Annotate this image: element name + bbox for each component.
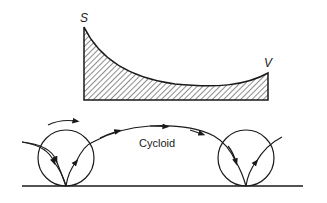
left-circle: [38, 130, 94, 186]
incoming-path-left: [22, 142, 66, 186]
upper-profile: S V: [80, 11, 273, 100]
label-v: V: [264, 56, 273, 70]
rotation-arrow-icon: [48, 121, 76, 126]
right-circle: [218, 130, 274, 186]
cycloid-diagram: [22, 121, 303, 187]
diagram-canvas: S V Cycloid: [0, 0, 327, 203]
label-s: S: [80, 11, 88, 25]
cycloid-label: Cycloid: [139, 137, 175, 149]
hatched-area: [84, 27, 268, 100]
